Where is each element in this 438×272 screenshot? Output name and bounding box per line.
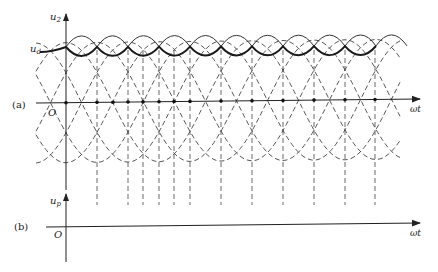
line-voltage-arc (376, 35, 407, 46)
line-voltage-arc (190, 36, 221, 47)
line-voltage-arc (314, 35, 345, 46)
time-dot (141, 100, 145, 104)
panel-a-x-label: ωt (410, 104, 421, 114)
time-dot (95, 101, 99, 105)
waveform-svg: u2 ud (a) O ωt up (b) O ωt (0, 0, 438, 272)
panel-b-x-axis (46, 223, 420, 227)
line-voltage-arc (221, 35, 252, 46)
time-dot (312, 98, 316, 102)
time-dot (172, 100, 176, 104)
panel-b-origin: O (54, 229, 62, 240)
ud-label: ud (30, 43, 41, 56)
panel-a-y-label: u2 (50, 11, 61, 24)
time-dot (281, 99, 285, 103)
line-voltage-arc (66, 36, 97, 47)
time-dot (188, 100, 192, 104)
time-dot (126, 100, 130, 104)
time-dot (111, 100, 115, 104)
line-voltage-envelope (66, 35, 407, 47)
time-dot (250, 99, 254, 103)
panel-a-origin: O (48, 107, 56, 118)
line-voltage-arc (128, 36, 159, 47)
panel-b-tag: (b) (14, 221, 28, 232)
line-voltage-arc (252, 35, 283, 46)
panel-a-tag: (a) (12, 99, 26, 110)
time-dot (157, 100, 161, 104)
rectifier-waveform-diagram: u2 ud (a) O ωt up (b) O ωt (0, 0, 438, 272)
line-voltage-arc (345, 35, 376, 46)
time-dot (343, 98, 347, 102)
time-dot (64, 101, 68, 105)
line-voltage-arc (97, 36, 128, 47)
commutation-dashed-verticals (97, 50, 375, 205)
line-voltage-arc (159, 36, 190, 47)
time-dot (219, 99, 223, 103)
line-voltage-arc (283, 35, 314, 46)
panel-b-y-label: up (50, 195, 61, 208)
time-dot (373, 98, 377, 102)
panel-b-x-label: ωt (410, 228, 421, 238)
